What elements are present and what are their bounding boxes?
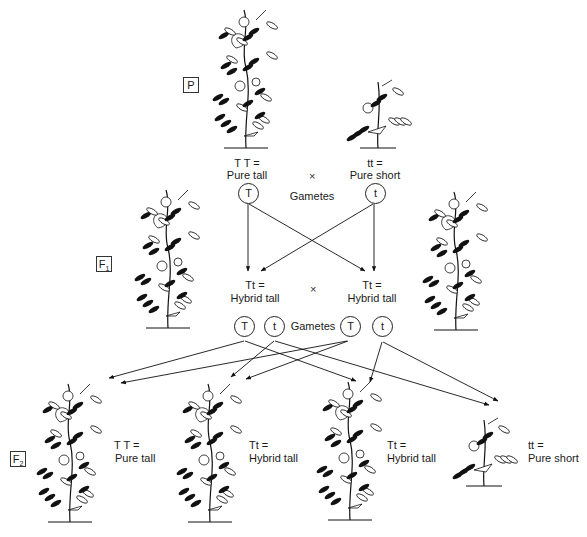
p-short-plant [346, 80, 413, 148]
generation-label-p: P [183, 77, 199, 93]
generation-f1-sub: 1 [105, 265, 109, 272]
p-cross-symbol: × [309, 170, 315, 182]
generation-label-f1: F1 [96, 256, 112, 272]
p-to-f1-arrows [248, 204, 374, 271]
p-left-phenotype: Pure tall [212, 169, 282, 182]
f1-cross-symbol: × [310, 283, 316, 295]
f2-3-genotype: Tt = [387, 439, 406, 452]
f2-4-genotype: tt = [528, 439, 544, 452]
f2-plant-2 [176, 384, 243, 522]
f1-right-genotype: Tt = [342, 279, 402, 292]
generation-label-f2: F2 [10, 451, 26, 467]
f2-1-genotype: T T = [114, 439, 139, 452]
p-right-phenotype: Pure short [340, 169, 410, 182]
f2-plant-4 [452, 418, 519, 486]
f1-right-phenotype: Hybrid tall [337, 292, 407, 305]
f2-2-phenotype: Hybrid tall [249, 452, 298, 465]
f2-plant-1 [36, 384, 103, 522]
f2-1-phenotype: Pure tall [115, 452, 155, 465]
f1-left-plant [134, 190, 201, 328]
p-tall-plant [212, 10, 279, 148]
f1-gamete-T-2: T [340, 316, 361, 337]
f2-3-phenotype: Hybrid tall [387, 452, 436, 465]
f2-2-genotype: Tt = [249, 439, 268, 452]
f1-gamete-t-2: t [372, 316, 393, 337]
p-gamete-T: T [238, 183, 259, 204]
f2-4-phenotype: Pure short [528, 452, 579, 465]
f1-left-phenotype: Hybrid tall [220, 292, 290, 305]
f1-to-f2-arrows [109, 341, 498, 405]
f1-right-plant [422, 192, 489, 330]
generation-f2-sub: 2 [19, 460, 23, 467]
f1-gamete-t-1: t [264, 316, 285, 337]
generation-p-text: P [187, 79, 194, 91]
p-gametes-label: Gametes [287, 190, 337, 203]
f1-gamete-T-1: T [234, 316, 255, 337]
genetics-cross-diagram: P F1 F2 T T = Pure tall tt = Pure short … [0, 0, 587, 537]
f1-left-genotype: Tt = [225, 279, 285, 292]
f1-gametes-label: Gametes [289, 320, 337, 333]
p-gamete-t: t [365, 183, 386, 204]
f2-plant-3 [316, 382, 383, 520]
